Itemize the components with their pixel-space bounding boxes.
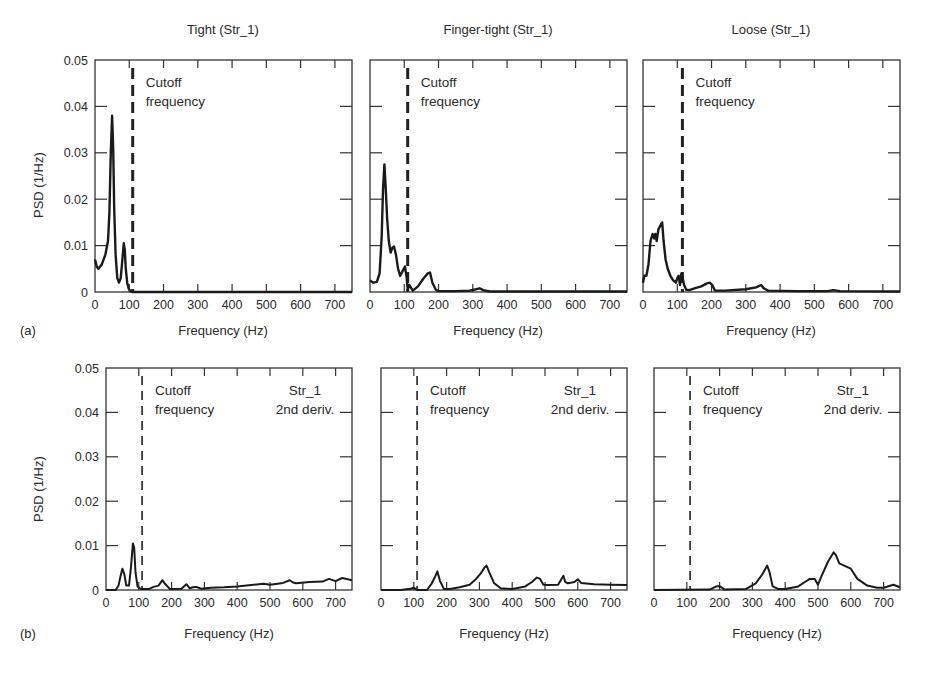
y-tick-label: 0.01 — [64, 239, 88, 253]
psd-curve — [106, 543, 352, 590]
x-tick-label: 400 — [775, 596, 796, 610]
plot-a3: 0100200300400500600700Cutofffrequency — [640, 60, 900, 312]
series-annotation: 2nd deriv. — [551, 402, 609, 417]
cutoff-annotation: Cutoff — [703, 383, 739, 398]
cutoff-annotation: frequency — [155, 402, 215, 417]
cutoff-annotation: Cutoff — [155, 383, 191, 398]
panel-title-tight: Tight (Str_1) — [187, 22, 259, 37]
y-tick-label: 0 — [92, 584, 99, 598]
cutoff-annotation: Cutoff — [695, 75, 731, 90]
row-label-b: (b) — [20, 626, 36, 641]
x-tick-label: 300 — [187, 298, 208, 312]
cutoff-annotation: frequency — [430, 402, 490, 417]
x-tick-label: 100 — [403, 596, 424, 610]
cutoff-annotation: Cutoff — [146, 75, 182, 90]
x-axis-label-a2: Frequency (Hz) — [453, 323, 543, 338]
y-tick-label: 0.02 — [64, 193, 88, 207]
x-tick-label: 300 — [194, 596, 215, 610]
x-tick-label: 0 — [92, 298, 99, 312]
series-annotation: 2nd deriv. — [276, 402, 334, 417]
psd-figure: 010020030040050060070000.010.020.030.040… — [0, 0, 927, 675]
x-tick-label: 100 — [128, 596, 149, 610]
cutoff-annotation: Cutoff — [430, 383, 466, 398]
x-tick-label: 500 — [808, 596, 829, 610]
y-tick-label: 0.01 — [75, 539, 99, 553]
series-annotation: Str_1 — [289, 383, 321, 398]
x-tick-label: 200 — [161, 596, 182, 610]
y-tick-label: 0.05 — [75, 362, 99, 376]
plot-b1: 010020030040050060070000.010.020.030.040… — [75, 362, 352, 611]
y-tick-label: 0.04 — [75, 406, 99, 420]
plot-b3: 0100200300400500600700CutofffrequencyStr… — [651, 368, 900, 610]
x-axis-label-b1: Frequency (Hz) — [184, 626, 274, 641]
cutoff-annotation: frequency — [703, 402, 763, 417]
y-tick-label: 0.04 — [64, 100, 88, 114]
x-tick-label: 100 — [676, 596, 697, 610]
x-tick-label: 100 — [667, 298, 688, 312]
x-tick-label: 600 — [292, 596, 313, 610]
x-tick-label: 200 — [701, 298, 722, 312]
x-tick-label: 200 — [428, 298, 449, 312]
y-tick-label: 0.03 — [75, 450, 99, 464]
x-tick-label: 600 — [838, 298, 859, 312]
x-axis-label-a3: Frequency (Hz) — [726, 323, 816, 338]
x-tick-label: 400 — [770, 298, 791, 312]
x-tick-label: 500 — [535, 596, 556, 610]
cutoff-annotation: Cutoff — [421, 75, 457, 90]
psd-curve — [654, 552, 900, 590]
x-tick-label: 500 — [256, 298, 277, 312]
y-tick-label: 0.02 — [75, 495, 99, 509]
x-axis-label-b3: Frequency (Hz) — [732, 626, 822, 641]
x-tick-label: 600 — [840, 596, 861, 610]
x-axis-label-a1: Frequency (Hz) — [178, 323, 268, 338]
y-axis-label-row-b: PSD (1/Hz) — [31, 456, 46, 522]
x-tick-label: 100 — [394, 298, 415, 312]
x-tick-label: 100 — [119, 298, 140, 312]
plot-b2: 0100200300400500600700CutofffrequencyStr… — [378, 368, 627, 610]
x-tick-label: 400 — [502, 596, 523, 610]
x-tick-label: 0 — [367, 298, 374, 312]
x-tick-label: 600 — [567, 596, 588, 610]
y-tick-label: 0.03 — [64, 146, 88, 160]
x-tick-label: 400 — [497, 298, 518, 312]
y-tick-label: 0.05 — [64, 54, 88, 68]
panel-title-finger-tight: Finger-tight (Str_1) — [443, 22, 552, 37]
x-tick-label: 300 — [742, 596, 763, 610]
cutoff-annotation: frequency — [146, 94, 206, 109]
series-annotation: Str_1 — [564, 383, 596, 398]
psd-curve — [381, 566, 627, 590]
x-tick-label: 600 — [290, 298, 311, 312]
x-tick-label: 700 — [873, 596, 894, 610]
x-tick-label: 300 — [735, 298, 756, 312]
series-annotation: Str_1 — [837, 383, 869, 398]
y-axis-label-row-a: PSD (1/Hz) — [31, 152, 46, 218]
x-tick-label: 300 — [462, 298, 483, 312]
x-axis-label-b2: Frequency (Hz) — [459, 626, 549, 641]
y-tick-label: 0 — [81, 286, 88, 300]
series-annotation: 2nd deriv. — [824, 402, 882, 417]
cutoff-annotation: frequency — [695, 94, 755, 109]
panel-title-loose: Loose (Str_1) — [732, 22, 811, 37]
x-tick-label: 0 — [103, 596, 110, 610]
plot-a1: 010020030040050060070000.010.020.030.040… — [64, 54, 352, 313]
x-tick-label: 200 — [436, 596, 457, 610]
x-tick-label: 600 — [565, 298, 586, 312]
x-tick-label: 400 — [227, 596, 248, 610]
x-tick-label: 700 — [324, 298, 345, 312]
x-tick-label: 700 — [872, 298, 893, 312]
x-tick-label: 500 — [531, 298, 552, 312]
x-tick-label: 500 — [260, 596, 281, 610]
x-tick-label: 400 — [222, 298, 243, 312]
x-tick-label: 300 — [469, 596, 490, 610]
x-tick-label: 700 — [325, 596, 346, 610]
cutoff-annotation: frequency — [421, 94, 481, 109]
x-tick-label: 0 — [651, 596, 658, 610]
x-tick-label: 200 — [709, 596, 730, 610]
x-tick-label: 700 — [599, 298, 620, 312]
x-tick-label: 0 — [640, 298, 647, 312]
x-tick-label: 200 — [153, 298, 174, 312]
x-tick-label: 500 — [804, 298, 825, 312]
plot-a2: 0100200300400500600700Cutofffrequency — [367, 60, 627, 312]
x-tick-label: 700 — [600, 596, 621, 610]
x-tick-label: 0 — [378, 596, 385, 610]
